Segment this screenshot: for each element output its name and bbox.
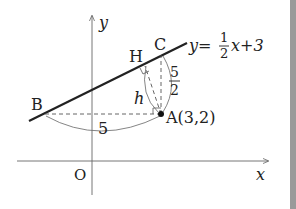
equation-prefix: y= <box>188 36 211 55</box>
measurement-h: h <box>134 89 144 108</box>
equation-label: y= 1 2 x+3 <box>188 30 264 61</box>
equation-fraction-denominator: 2 <box>220 46 228 61</box>
point-A <box>158 111 164 117</box>
measurement-5-2-numerator: 5 <box>170 64 179 80</box>
origin-label: O <box>74 166 86 184</box>
x-axis-label: x <box>256 165 265 184</box>
equation-fraction-numerator: 1 <box>220 30 228 45</box>
y-axis-label: y <box>98 13 109 32</box>
point-label-B: B <box>31 95 43 114</box>
line-y-half-x-plus-3 <box>29 43 187 121</box>
page-edge-bar <box>290 0 296 209</box>
equation-suffix: x+3 <box>231 36 264 55</box>
measurement-5: 5 <box>98 119 108 138</box>
point-label-C: C <box>154 35 166 54</box>
brace-arc-h <box>145 66 159 112</box>
coordinate-diagram: y x O B H C A(3,2) 5 h 5 2 <box>0 0 296 209</box>
point-label-H: H <box>129 47 143 66</box>
measurement-5-2-denominator: 2 <box>170 82 179 98</box>
point-label-A: A(3,2) <box>165 108 215 127</box>
